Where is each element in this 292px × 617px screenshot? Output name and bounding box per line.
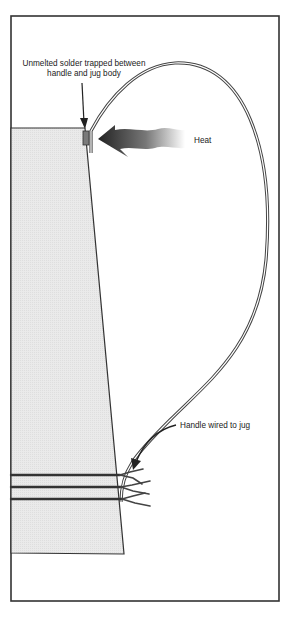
solder-callout-arrow: [80, 83, 88, 129]
heat-arrow: [98, 125, 185, 157]
wired-label: Handle wired to jug: [180, 421, 250, 431]
solder-label: Unmelted solder trapped between handle a…: [13, 59, 155, 79]
solder-joint: [83, 131, 89, 145]
heat-label: Heat: [194, 136, 211, 146]
wired-callout-arrow: [131, 425, 176, 470]
handle-wire: [91, 63, 268, 502]
diagram-canvas: [0, 0, 292, 617]
jug-body: [11, 128, 124, 554]
